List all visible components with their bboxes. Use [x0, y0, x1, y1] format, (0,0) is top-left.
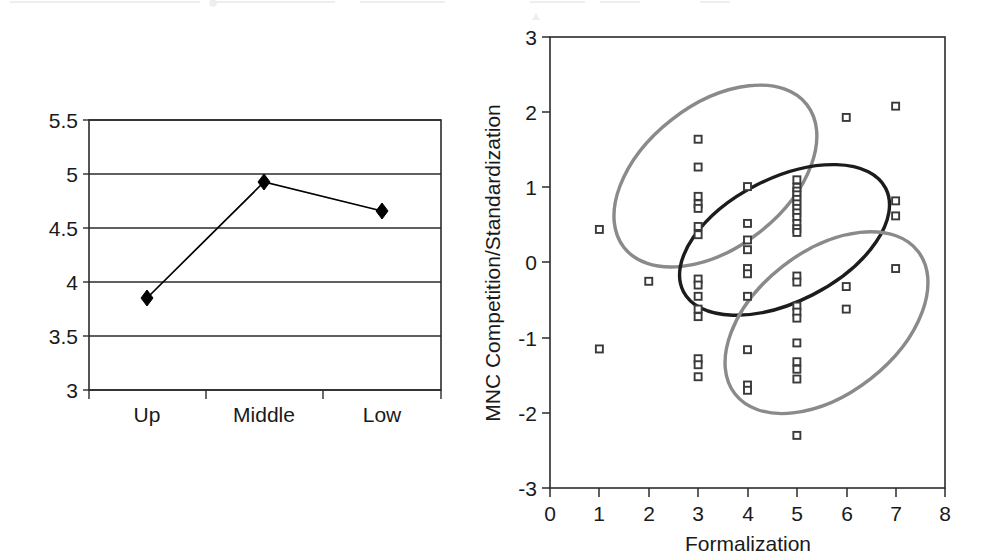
ytick-label-neg1: -1: [518, 327, 537, 350]
left-x-ticks: [89, 390, 441, 399]
right-y-ticks: [542, 37, 550, 488]
left-y-tick-labels: 5.5 5 4.5 4 3.5 3: [49, 109, 79, 402]
data-point-marker-middle: [258, 174, 270, 190]
xtick-label-8: 8: [939, 502, 951, 525]
xtick-label-4: 4: [742, 502, 754, 525]
xtick-label-3: 3: [692, 502, 704, 525]
scatter-point-marker: [892, 265, 899, 272]
scatter-point-marker: [695, 313, 702, 320]
xtick-label-2: 2: [643, 502, 655, 525]
scatter-point-marker: [744, 246, 751, 253]
scatter-point-marker: [744, 346, 751, 353]
ytick-label-3-5: 3.5: [49, 325, 78, 348]
scatter-point-marker: [695, 136, 702, 143]
xtick-label-6: 6: [841, 502, 853, 525]
xtick-label-0: 0: [544, 502, 556, 525]
scatter-point-marker: [843, 283, 850, 290]
scatter-point-marker: [744, 293, 751, 300]
lower-right-cluster-ellipse: [691, 195, 962, 450]
scatter-point-marker: [793, 358, 800, 365]
left-x-tick-labels: Up Middle Low: [134, 403, 403, 426]
scatter-point-marker: [695, 205, 702, 212]
scatter-chart-right: 3 2 1 0 -1 -2 -3 0: [481, 26, 962, 555]
ytick-label-5-5: 5.5: [49, 109, 78, 132]
left-plot-border: [89, 120, 441, 390]
left-plot-frame: [89, 120, 441, 390]
ytick-label-3: 3: [525, 26, 537, 49]
scatter-point-marker: [744, 236, 751, 243]
scatter-point-marker: [695, 193, 702, 200]
y-axis-title: MNC Competition/Standardization: [481, 104, 504, 421]
line-chart-left: 5.5 5 4.5 4 3.5 3 Up Middle Low: [49, 109, 441, 426]
scatter-point-marker: [892, 197, 899, 204]
scatter-point-marker: [596, 226, 603, 233]
scatter-point-marker: [695, 306, 702, 313]
left-y-ticks: [83, 120, 89, 390]
scatter-point-marker: [744, 220, 751, 227]
xtick-label-7: 7: [890, 502, 902, 525]
scatter-point-marker: [793, 176, 800, 183]
scatter-point-marker: [793, 229, 800, 236]
scatter-points: [596, 103, 899, 439]
xtick-label-middle: Middle: [233, 403, 295, 426]
x-axis-title: Formalization: [685, 532, 811, 555]
ytick-label-4-5: 4.5: [49, 217, 78, 240]
scatter-point-marker: [793, 432, 800, 439]
figure-container: 5.5 5 4.5 4 3.5 3 Up Middle Low: [0, 0, 981, 560]
ytick-label-neg2: -2: [518, 402, 537, 425]
right-x-tick-labels: 0 1 2 3 4 5 6 7 8: [544, 502, 951, 525]
ytick-label-2: 2: [525, 101, 537, 124]
scatter-point-marker: [695, 293, 702, 300]
data-point-marker-low: [376, 203, 388, 219]
scatter-point-marker: [793, 279, 800, 286]
ytick-label-5: 5: [66, 163, 78, 186]
scatter-point-marker: [645, 278, 652, 285]
scatter-point-marker: [744, 387, 751, 394]
scatter-point-marker: [744, 183, 751, 190]
scatter-point-marker: [793, 339, 800, 346]
scatter-point-marker: [695, 231, 702, 238]
ytick-label-1: 1: [525, 176, 537, 199]
right-plot-border: [550, 37, 945, 488]
left-gridlines: [89, 120, 441, 390]
ytick-label-4: 4: [66, 271, 78, 294]
scatter-point-marker: [843, 306, 850, 313]
ytick-label-0: 0: [525, 251, 537, 274]
right-y-tick-labels: 3 2 1 0 -1 -2 -3: [518, 26, 537, 500]
scatter-point-marker: [793, 376, 800, 383]
scatter-point-marker: [843, 114, 850, 121]
xtick-label-1: 1: [593, 502, 605, 525]
upper-left-cluster-ellipse: [580, 48, 851, 303]
line-series-path: [147, 182, 382, 298]
data-point-marker-up: [141, 290, 153, 306]
scatter-point-marker: [695, 223, 702, 230]
scatter-point-marker: [793, 366, 800, 373]
left-data-series: [141, 174, 388, 306]
ytick-label-neg3: -3: [518, 477, 537, 500]
scatter-point-marker: [695, 373, 702, 380]
xtick-label-up: Up: [134, 403, 161, 426]
ytick-label-3: 3: [66, 379, 78, 402]
scatter-point-marker: [793, 315, 800, 322]
scatter-point-marker: [596, 345, 603, 352]
scatter-point-marker: [892, 212, 899, 219]
right-x-ticks: [550, 488, 945, 497]
scatter-point-marker: [744, 270, 751, 277]
scatter-point-marker: [695, 164, 702, 171]
figure-canvas: 5.5 5 4.5 4 3.5 3 Up Middle Low: [0, 0, 981, 560]
scan-artifact-strip: [10, 0, 730, 20]
xtick-label-low: Low: [363, 403, 402, 426]
scatter-point-marker: [695, 282, 702, 289]
xtick-label-5: 5: [791, 502, 803, 525]
scatter-point-marker: [695, 361, 702, 368]
scatter-point-marker: [892, 103, 899, 110]
cluster-ellipses: [580, 48, 962, 450]
